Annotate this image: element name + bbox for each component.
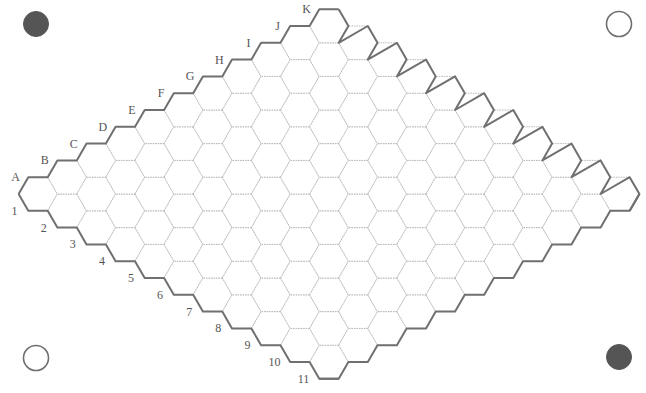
col-label-2: 2 (41, 221, 47, 235)
hex-board: ABCDEFGHIJK1234567891011 (0, 0, 646, 393)
col-label-3: 3 (70, 237, 76, 251)
col-label-8: 8 (215, 321, 221, 335)
row-label-H: H (215, 53, 224, 67)
col-label-11: 11 (298, 372, 310, 386)
row-label-F: F (158, 86, 165, 100)
col-label-9: 9 (244, 338, 250, 352)
row-label-J: J (275, 19, 280, 33)
corner-marker-top-right-hollow-icon (607, 12, 632, 37)
corner-marker-bottom-right-filled-icon (607, 345, 632, 370)
col-label-4: 4 (99, 254, 105, 268)
col-label-10: 10 (269, 355, 281, 369)
row-label-I: I (246, 36, 250, 50)
col-label-5: 5 (128, 271, 134, 285)
corner-marker-bottom-left-hollow-icon (24, 346, 49, 371)
row-label-A: A (11, 170, 20, 184)
row-label-D: D (99, 120, 108, 134)
row-label-C: C (70, 137, 78, 151)
col-label-7: 7 (186, 305, 192, 319)
col-label-6: 6 (157, 288, 163, 302)
col-label-1: 1 (12, 204, 18, 218)
corner-marker-top-left-filled-icon (24, 12, 49, 37)
hex-cells (19, 9, 640, 379)
row-label-G: G (186, 69, 195, 83)
row-label-B: B (41, 153, 49, 167)
row-label-K: K (302, 2, 311, 16)
row-label-E: E (128, 103, 135, 117)
